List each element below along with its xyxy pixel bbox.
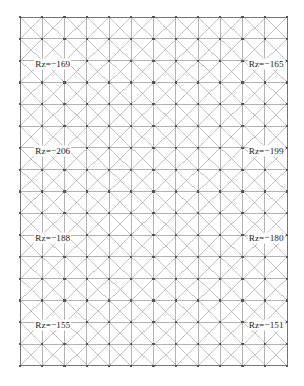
reaction-label-rz-lower-left: Rz=−188 [34,233,71,244]
reaction-label-rz-lower-right: Rz=−180 [248,233,285,244]
reaction-label-rz-bottom-left: Rz=−155 [34,320,71,331]
reaction-label-rz-top-left: Rz=−169 [34,58,71,69]
reaction-label-rz-bottom-right: Rz=−151 [248,320,285,331]
mesh-figure: Rz=−169Rz=−165Rz=−206Rz=−199Rz=−188Rz=−1… [0,0,304,386]
reaction-label-rz-upper-left: Rz=−206 [34,145,71,156]
reaction-label-rz-top-right: Rz=−165 [248,58,285,69]
reaction-label-rz-upper-right: Rz=−199 [248,145,285,156]
